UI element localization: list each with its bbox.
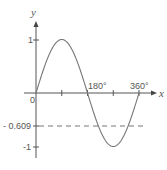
x-axis-arrow-icon bbox=[151, 91, 157, 96]
y-label-neg1: -1 bbox=[23, 142, 31, 152]
y-axis-label: y bbox=[30, 6, 36, 18]
y-axis-arrow-icon bbox=[34, 21, 39, 27]
x-axis-label: x bbox=[158, 87, 164, 99]
origin-label: 0 bbox=[30, 95, 35, 105]
sine-graph: y x 0 180° 360° 1 - 0.609 -1 bbox=[0, 0, 167, 170]
y-label-1: 1 bbox=[28, 35, 33, 45]
tick-label-360: 360° bbox=[130, 81, 149, 91]
tick-label-180: 180° bbox=[88, 81, 107, 91]
y-label-neg0609: - 0.609 bbox=[3, 121, 31, 131]
